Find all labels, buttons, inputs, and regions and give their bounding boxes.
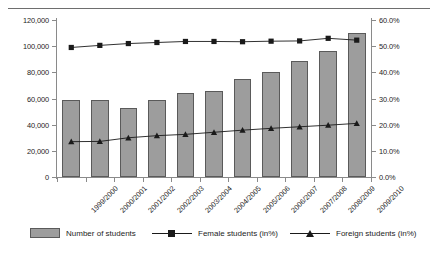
chart-figure: 020,00040,00060,00080,000100,000120,000 … (0, 0, 438, 261)
data-point-square-marker (97, 43, 102, 48)
x-axis-tick-label: 2000/2001 (118, 184, 149, 215)
right-axis-tick-label: 10.0% (379, 146, 399, 155)
right-axis-tick-label: 40.0% (379, 68, 399, 77)
right-axis-tick (372, 99, 376, 100)
x-axis-tick (314, 178, 315, 182)
x-axis-tick-label: 2003/2004 (204, 184, 235, 215)
right-axis-tick (372, 20, 376, 21)
x-axis-tick-label: 1999/2000 (89, 184, 120, 215)
x-axis-tick (86, 178, 87, 182)
right-axis-tick (372, 151, 376, 152)
x-axis-tick (285, 178, 286, 182)
left-axis-tick-label: 40,000 (27, 120, 49, 129)
left-axis-tick-label: 80,000 (27, 68, 49, 77)
x-axis-tick (57, 178, 58, 182)
x-axis-tick (228, 178, 229, 182)
data-point-square-marker (69, 45, 74, 50)
right-axis-tick (372, 46, 376, 47)
right-axis-tick-label: 0.0% (379, 173, 395, 182)
x-axis-tick (342, 178, 343, 182)
line-square-marker-icon (152, 228, 192, 238)
left-axis-tick (52, 20, 56, 21)
chart-canvas: 020,00040,00060,00080,000100,000120,000 … (0, 14, 438, 214)
left-axis-tick (52, 72, 56, 73)
x-axis-tick (143, 178, 144, 182)
x-axis-tick-label: 2004/2005 (232, 184, 263, 215)
left-axis-tick (52, 125, 56, 126)
left-axis-tick (52, 177, 56, 178)
x-axis-tick (200, 178, 201, 182)
right-axis-tick (372, 177, 376, 178)
plot-area (57, 20, 371, 177)
bar-swatch-icon (30, 228, 60, 238)
chart-legend: Number of students Female students (in%)… (0, 225, 438, 247)
x-axis-tick-label: 2006/2007 (289, 184, 320, 215)
data-point-square-marker (183, 39, 188, 44)
data-point-square-marker (354, 38, 359, 43)
top-divider-rule (8, 8, 430, 9)
x-axis-tick-label: 2007/2008 (318, 184, 349, 215)
x-axis-tick-label: 2005/2006 (261, 184, 292, 215)
x-axis-tick-label: 2008/2009 (346, 184, 377, 215)
left-axis-tick (52, 46, 56, 47)
data-point-square-marker (126, 41, 131, 46)
data-point-square-marker (268, 39, 273, 44)
data-point-square-marker (240, 39, 245, 44)
x-axis-line (56, 177, 373, 178)
legend-label-number-of-students: Number of students (66, 229, 136, 238)
legend-label-foreign-students: Foreign students (in%) (336, 229, 416, 238)
x-axis-tick-label: 2002/2003 (175, 184, 206, 215)
right-axis-tick-label: 60.0% (379, 16, 399, 25)
legend-item-number-of-students: Number of students (30, 228, 136, 238)
line-series-group (57, 20, 371, 177)
line-triangle-marker-icon (290, 228, 330, 238)
left-axis-tick-label: 20,000 (27, 146, 49, 155)
data-point-square-marker (297, 38, 302, 43)
left-axis-tick-label: 0 (45, 173, 49, 182)
right-axis-tick (372, 72, 376, 73)
legend-label-female-students: Female students (in%) (198, 229, 278, 238)
left-axis-tick-label: 60,000 (27, 94, 49, 103)
right-axis-tick-label: 30.0% (379, 94, 399, 103)
legend-item-female-students: Female students (in%) (152, 228, 278, 238)
data-point-square-marker (211, 39, 216, 44)
right-axis-tick (372, 125, 376, 126)
right-axis-tick-label: 50.0% (379, 42, 399, 51)
left-axis-tick (52, 99, 56, 100)
x-axis-tick-label: 2009/2010 (375, 184, 406, 215)
legend-item-foreign-students: Foreign students (in%) (290, 228, 416, 238)
left-axis-tick-label: 100,000 (23, 42, 49, 51)
x-axis-tick-label: 2001/2002 (146, 184, 177, 215)
x-axis-tick (171, 178, 172, 182)
left-axis-tick-label: 120,000 (23, 16, 49, 25)
data-point-square-marker (154, 40, 159, 45)
data-point-square-marker (326, 36, 331, 41)
x-axis-tick (114, 178, 115, 182)
x-axis-tick (257, 178, 258, 182)
right-axis-tick-label: 20.0% (379, 120, 399, 129)
x-axis-tick (371, 178, 372, 182)
left-axis-tick (52, 151, 56, 152)
